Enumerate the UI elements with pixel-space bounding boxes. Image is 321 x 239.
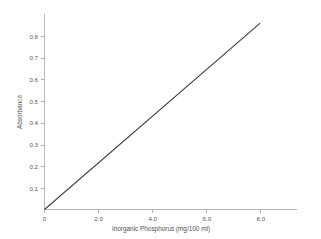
y-tick-label-2: 0.6: [29, 76, 38, 83]
x-axis-title: Inorganic Phosphorus (mg/100 ml): [112, 225, 210, 233]
chart-plot-area: 0.8 0.7 0.6 0.5 0.4 0.3 0.2 0.1 0 2.0 4.…: [0, 0, 321, 239]
x-tick-label-1: 2.0: [94, 215, 103, 222]
y-tick-label-6: 0.2: [29, 163, 38, 170]
x-tick-label-3: 6.0: [202, 215, 211, 222]
chart-container: 0.8 0.7 0.6 0.5 0.4 0.3 0.2 0.1 0 2.0 4.…: [0, 0, 321, 239]
chart-background: [0, 0, 321, 239]
y-axis-title: Absorbance: [16, 95, 23, 130]
y-tick-label-3: 0.5: [29, 98, 38, 105]
x-tick-label-0: 0: [43, 215, 47, 222]
y-tick-label-1: 0.7: [29, 54, 38, 61]
y-tick-label-7: 0.1: [29, 185, 38, 192]
y-tick-label-4: 0.4: [29, 119, 38, 126]
y-tick-label-0: 0.8: [29, 33, 38, 40]
y-tick-label-5: 0.3: [29, 141, 38, 148]
x-tick-label-2: 4.0: [148, 215, 157, 222]
x-tick-label-4: 8.0: [257, 215, 266, 222]
